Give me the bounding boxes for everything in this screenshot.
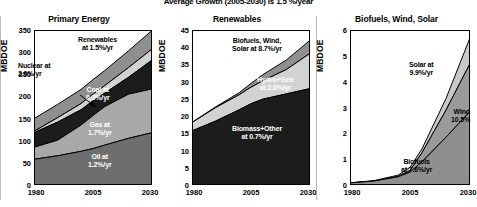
x-tick: 1980 (344, 188, 361, 197)
annotation-biofuels: Biofuels at 7.6%/yr (401, 158, 432, 175)
y-tick: 10 (181, 146, 189, 155)
y-tick: 1 (343, 155, 347, 164)
x-tick: 2030 (460, 188, 477, 197)
y-tick: 5 (343, 51, 347, 60)
panel-title: Primary Energy (0, 14, 158, 24)
annotation-biofuels-wind-solar: Biofuels, Wind, Solar at 8.7%/yr (232, 37, 282, 54)
y-tick: 300 (18, 48, 31, 57)
y-tick: 50 (23, 158, 31, 167)
annotation-coal: Coal at 0.3%/yr (86, 86, 109, 103)
y-axis-ticks: 0 1 2 3 4 5 6 (316, 30, 347, 185)
x-tick: 1980 (28, 188, 45, 197)
y-tick: 2 (343, 129, 347, 138)
panel-title: Renewables (158, 14, 316, 24)
panel-renewables: Renewables MBDOE 0 5 10 15 20 25 30 35 4… (158, 14, 316, 207)
chart-figure: Average Growth (2005-2030) is 1.5 %/year… (0, 0, 477, 207)
x-tick: 2005 (402, 188, 419, 197)
panel-title: Biofuels, Wind, Solar (316, 14, 477, 24)
x-tick: 2030 (142, 188, 159, 197)
annotation-gas: Gas at 1.7%/yr (88, 121, 111, 138)
y-axis-ticks: 0 50 100 150 200 250 300 350 (0, 30, 31, 185)
x-tick: 2005 (85, 188, 102, 197)
panel-biofuels-wind-solar: Biofuels, Wind, Solar MBDOE 0 1 2 3 4 5 … (316, 14, 477, 207)
y-tick: 350 (18, 26, 31, 35)
y-tick: 15 (181, 129, 189, 138)
y-tick: 25 (181, 94, 189, 103)
y-tick: 100 (18, 136, 31, 145)
y-tick: 5 (185, 163, 189, 172)
figure-suptitle: Average Growth (2005-2030) is 1.5 %/year (0, 0, 477, 6)
x-tick: 1980 (186, 188, 203, 197)
annotation-oil: Oil at 1.2%/yr (88, 153, 111, 170)
annotation-wind: Wind 10.5% (412, 108, 470, 125)
y-tick: 3 (343, 103, 347, 112)
y-tick: 35 (181, 60, 189, 69)
y-axis-ticks: 0 5 10 15 20 25 30 35 40 45 (158, 30, 189, 185)
y-tick: 20 (181, 112, 189, 121)
annotation-solar: Solar at 9.9%/yr (409, 61, 433, 78)
annotation-hydro-geo: Hydro+Geo at 2.0%/yr (257, 76, 294, 93)
y-tick: 150 (18, 114, 31, 123)
y-tick: 40 (181, 43, 189, 52)
y-tick: 200 (18, 92, 31, 101)
annotation-nuclear: Nuclear at 2.0%/yr (18, 62, 50, 79)
annotation-biomass-other: Biomass+Other at 0.7%/yr (232, 125, 282, 142)
y-tick: 45 (181, 26, 189, 35)
x-tick: 2030 (300, 188, 317, 197)
y-tick: 30 (181, 77, 189, 86)
y-tick: 4 (343, 77, 347, 86)
annotation-renewables: Renewables at 1.5%/yr (78, 36, 117, 53)
y-tick: 6 (343, 26, 347, 35)
panel-primary-energy: Primary Energy MBDOE 0 50 100 150 200 25… (0, 14, 158, 207)
x-tick: 2005 (243, 188, 260, 197)
